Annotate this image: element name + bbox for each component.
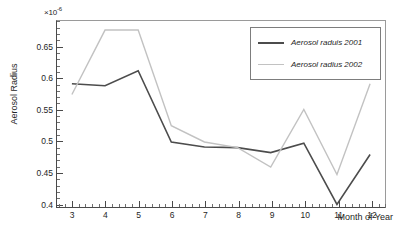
y-axis-title-text: Aerosol Radius bbox=[9, 63, 19, 124]
x-axis-minor-tick bbox=[159, 204, 160, 207]
y-axis-tick bbox=[57, 78, 63, 79]
y-axis-tick-label: 0.55 bbox=[36, 105, 53, 115]
x-axis-minor-tick bbox=[219, 204, 220, 207]
x-axis-minor-tick bbox=[232, 204, 233, 207]
y-axis-tick-label: 0.5 bbox=[41, 136, 53, 146]
y-axis-minor-tick bbox=[57, 66, 60, 67]
x-axis-minor-tick bbox=[185, 204, 186, 207]
x-axis-minor-tick bbox=[319, 204, 320, 207]
x-axis-minor-tick bbox=[379, 204, 380, 207]
y-axis-tick-label: 0.45 bbox=[36, 168, 53, 178]
legend-entry-2001: Aerosol raduis 2001 bbox=[251, 35, 380, 51]
y-axis-title: Aerosol Radius bbox=[6, 34, 22, 154]
x-axis-minor-tick bbox=[385, 204, 386, 207]
y-axis-tick bbox=[57, 110, 63, 111]
y-axis-tick bbox=[57, 47, 63, 48]
y-axis-minor-tick bbox=[57, 53, 60, 54]
x-axis-tick bbox=[239, 201, 240, 207]
x-axis-title-text: Month of Year bbox=[337, 212, 393, 222]
x-axis-tick bbox=[105, 201, 106, 207]
x-axis-minor-tick bbox=[345, 204, 346, 207]
x-axis-minor-tick bbox=[225, 204, 226, 207]
y-axis-minor-tick bbox=[57, 85, 60, 86]
x-axis-minor-tick bbox=[59, 204, 60, 207]
x-axis-minor-tick bbox=[212, 204, 213, 207]
x-axis-minor-tick bbox=[99, 204, 100, 207]
y-axis-minor-tick bbox=[57, 40, 60, 41]
x-axis-minor-tick bbox=[359, 204, 360, 207]
y-axis-minor-tick bbox=[57, 160, 60, 161]
x-axis-tick bbox=[339, 201, 340, 207]
y-axis-minor-tick bbox=[57, 167, 60, 168]
aerosol-radius-chart: Aerosol Radius ×10-6 0.40.450.50.550.60.… bbox=[0, 0, 395, 244]
y-axis-minor-tick bbox=[57, 116, 60, 117]
x-axis-minor-tick bbox=[192, 204, 193, 207]
x-axis-minor-tick bbox=[65, 204, 66, 207]
x-axis-minor-tick bbox=[252, 204, 253, 207]
x-axis-minor-tick bbox=[132, 204, 133, 207]
x-axis-minor-tick bbox=[299, 204, 300, 207]
x-axis-minor-tick bbox=[279, 204, 280, 207]
y-axis-exponent: ×10-6 bbox=[44, 6, 62, 17]
x-axis-minor-tick bbox=[292, 204, 293, 207]
x-axis-minor-tick bbox=[165, 204, 166, 207]
x-axis-tick bbox=[205, 201, 206, 207]
x-axis-minor-tick bbox=[365, 204, 366, 207]
x-axis-minor-tick bbox=[119, 204, 120, 207]
x-axis-minor-tick bbox=[265, 204, 266, 207]
y-axis-tick-label: 0.65 bbox=[36, 42, 53, 52]
y-axis-minor-tick bbox=[57, 72, 60, 73]
y-axis-minor-tick bbox=[57, 154, 60, 155]
x-axis-tick bbox=[305, 201, 306, 207]
chart-legend: Aerosol raduis 2001 Aerosol radius 2002 bbox=[250, 27, 381, 80]
y-axis-tick-label: 0.4 bbox=[41, 200, 53, 210]
x-axis-minor-tick bbox=[325, 204, 326, 207]
x-axis-minor-tick bbox=[152, 204, 153, 207]
x-axis-tick bbox=[372, 201, 373, 207]
y-axis-tick bbox=[57, 141, 63, 142]
y-axis-minor-tick bbox=[57, 179, 60, 180]
x-axis-minor-tick bbox=[92, 204, 93, 207]
x-axis-tick bbox=[139, 201, 140, 207]
y-axis-tick-label: 0.6 bbox=[41, 73, 53, 83]
x-axis-minor-tick bbox=[332, 204, 333, 207]
x-axis-minor-tick bbox=[312, 204, 313, 207]
x-axis-tick bbox=[172, 201, 173, 207]
y-axis-minor-tick bbox=[57, 192, 60, 193]
y-axis-minor-tick bbox=[57, 21, 60, 22]
x-axis-minor-tick bbox=[285, 204, 286, 207]
y-axis-minor-tick bbox=[57, 91, 60, 92]
y-axis-exponent-power: -6 bbox=[57, 6, 62, 12]
y-axis-minor-tick bbox=[57, 59, 60, 60]
legend-swatch-2002 bbox=[258, 64, 284, 65]
x-axis-minor-tick bbox=[112, 204, 113, 207]
x-axis-minor-tick bbox=[85, 204, 86, 207]
x-axis-tick bbox=[272, 201, 273, 207]
series-line-2001 bbox=[72, 71, 370, 205]
y-axis-minor-tick bbox=[57, 97, 60, 98]
y-axis-exponent-base: ×10 bbox=[44, 8, 57, 17]
y-axis-minor-tick bbox=[57, 122, 60, 123]
x-axis-minor-tick bbox=[245, 204, 246, 207]
x-axis-minor-tick bbox=[145, 204, 146, 207]
y-axis-minor-tick bbox=[57, 186, 60, 187]
x-axis-minor-tick bbox=[199, 204, 200, 207]
y-axis-minor-tick bbox=[57, 135, 60, 136]
x-axis-minor-tick bbox=[259, 204, 260, 207]
legend-label-2002: Aerosol radius 2002 bbox=[291, 60, 362, 69]
x-axis-minor-tick bbox=[352, 204, 353, 207]
y-axis-minor-tick bbox=[57, 28, 60, 29]
y-axis-minor-tick bbox=[57, 103, 60, 104]
y-axis-minor-tick bbox=[57, 129, 60, 130]
x-axis-tick bbox=[72, 201, 73, 207]
y-axis-tick bbox=[57, 173, 63, 174]
x-axis-minor-tick bbox=[79, 204, 80, 207]
y-axis-minor-tick bbox=[57, 34, 60, 35]
y-axis-minor-tick bbox=[57, 198, 60, 199]
x-axis-minor-tick bbox=[125, 204, 126, 207]
legend-swatch-2001 bbox=[258, 42, 284, 44]
y-axis-minor-tick bbox=[57, 148, 60, 149]
x-axis-minor-tick bbox=[179, 204, 180, 207]
legend-label-2001: Aerosol raduis 2001 bbox=[291, 38, 362, 47]
legend-entry-2002: Aerosol radius 2002 bbox=[251, 56, 380, 72]
